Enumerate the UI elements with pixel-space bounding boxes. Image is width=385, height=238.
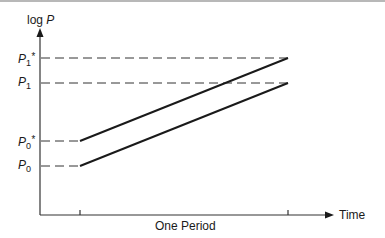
price-path (80, 83, 288, 166)
y-axis-arrow-icon (37, 28, 44, 37)
period-label: One Period (155, 220, 216, 232)
label-p0: P0 (18, 159, 31, 175)
x-axis-label: Time (339, 209, 365, 221)
diagram-canvas (0, 0, 385, 238)
label-p0-star: P0* (18, 134, 35, 152)
price-path-star (80, 58, 288, 141)
label-p1: P1 (18, 76, 31, 92)
y-axis-label: log P (27, 14, 54, 26)
x-axis-arrow-icon (325, 212, 334, 219)
label-p1-star: P1* (18, 51, 35, 69)
dashed-reference-lines (41, 58, 288, 166)
